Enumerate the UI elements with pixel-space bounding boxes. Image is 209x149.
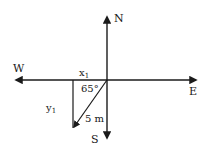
diagram-svg: W E N S x1 y1 65° 5 m — [0, 0, 209, 149]
y1-sub: 1 — [52, 107, 56, 115]
magnitude-label: 5 m — [85, 113, 105, 124]
x1-sub: 1 — [85, 72, 89, 80]
south-label: S — [91, 133, 99, 146]
compass-vector-diagram: W E N S x1 y1 65° 5 m — [0, 0, 209, 149]
angle-label: 65° — [81, 83, 99, 94]
north-label: N — [114, 12, 124, 25]
x1-label: x1 — [79, 67, 89, 80]
east-label: E — [189, 85, 197, 98]
y1-label: y1 — [45, 102, 56, 115]
west-label: W — [13, 62, 25, 75]
